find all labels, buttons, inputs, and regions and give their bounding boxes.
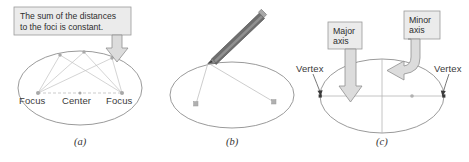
- vertex-right-arrow: [443, 74, 449, 93]
- callout-major-line1: Major: [333, 26, 355, 37]
- label-vertex-right: Vertex: [434, 63, 462, 74]
- major-axis-arrow: [339, 49, 362, 102]
- panel-c-graphics: [0, 0, 469, 162]
- callout-minor-line2: axis: [409, 25, 425, 36]
- caption-c: (c): [376, 136, 388, 147]
- vertex-left-arrow: [313, 74, 321, 93]
- label-vertex-left: Vertex: [296, 63, 324, 74]
- callout-minor-line1: Minor: [409, 15, 431, 26]
- ellipse-figure: The sum of the distances to the foci is …: [0, 0, 469, 162]
- callout-major-line2: axis: [333, 36, 349, 47]
